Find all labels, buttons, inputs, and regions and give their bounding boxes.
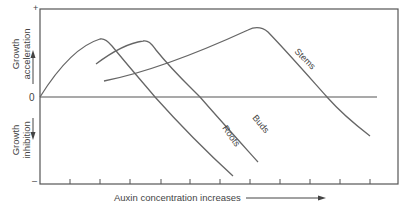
buds-label: Buds <box>250 113 271 136</box>
inhibition-label: inhibition <box>21 121 32 159</box>
growth-label-bottom: Growth <box>10 125 21 156</box>
x-axis-label: Auxin concentration increases <box>114 192 241 203</box>
roots-curve <box>40 39 233 176</box>
roots-label: Roots <box>220 123 242 148</box>
zero-marker: 0 <box>29 92 35 103</box>
x-ticks <box>70 179 370 184</box>
growth-label-top: Growth <box>10 39 21 70</box>
auxin-growth-diagram: Roots Buds Stems + 0 – Growth accelerati… <box>0 0 407 211</box>
stems-label: Stems <box>293 46 318 71</box>
acceleration-label: acceleration <box>21 28 32 79</box>
stems-curve <box>104 28 370 136</box>
minus-marker: – <box>32 176 37 186</box>
plus-marker: + <box>33 3 38 13</box>
right-arrow-icon <box>246 196 326 201</box>
